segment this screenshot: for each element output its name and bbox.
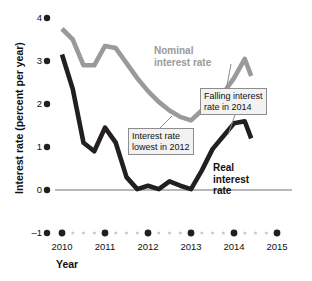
series-label-nominal-line1: Nominal xyxy=(154,45,193,56)
series-label-nominal-interest-rate: Nominal interest rate xyxy=(154,45,211,68)
series-label-real-line1: Real xyxy=(213,162,234,173)
series-label-real-line2: interest xyxy=(213,174,249,185)
callout-leader-2012 xyxy=(160,116,172,128)
annotation-lowest-2012-line2: lowest in 2012 xyxy=(132,142,190,152)
annotation-interest-rate-lowest-2012: Interest rate lowest in 2012 xyxy=(128,128,194,155)
x-tick-label-2013: 2013 xyxy=(171,241,211,252)
x-tick-label-2015: 2015 xyxy=(257,241,297,252)
y-tick-label-minus-1: –1 xyxy=(18,227,42,238)
y-tick-label-1: 1 xyxy=(22,141,42,152)
x-axis-title: Year xyxy=(56,258,78,270)
x-tick-label-2011: 2011 xyxy=(85,241,125,252)
y-tick-label-2: 2 xyxy=(22,98,42,109)
y-tick-label-0: 0 xyxy=(22,184,42,195)
x-tick-label-2012: 2012 xyxy=(128,241,168,252)
annotation-falling-2014-line1: Falling interest xyxy=(204,91,263,101)
x-tick-label-2014: 2014 xyxy=(214,241,254,252)
y-tick-label-4: 4 xyxy=(22,12,42,23)
annotation-falling-2014-line2: rate in 2014 xyxy=(204,102,252,112)
series-label-real-line3: rate xyxy=(213,185,231,196)
annotation-lowest-2012-line1: Interest rate xyxy=(132,131,180,141)
x-tick-label-2010: 2010 xyxy=(42,241,82,252)
series-label-real-interest-rate: Real interest rate xyxy=(213,162,249,197)
x-axis-tick-dots xyxy=(59,230,281,237)
chart-container: 4 3 2 1 0 –1 2010 2011 2012 2013 2014 20… xyxy=(0,0,312,281)
annotation-falling-rate-2014: Falling interest rate in 2014 xyxy=(200,88,267,115)
y-tick-label-3: 3 xyxy=(22,55,42,66)
y-axis-tick-dots xyxy=(44,15,50,236)
series-label-nominal-line2: interest rate xyxy=(154,57,211,68)
